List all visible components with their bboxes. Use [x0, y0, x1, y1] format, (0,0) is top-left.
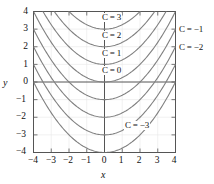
x-tick-label: 4 — [165, 156, 183, 166]
y-tick-label: −1 — [8, 95, 26, 105]
y-tick-label: 4 — [10, 7, 28, 17]
x-tick-label: 1 — [112, 156, 130, 166]
x-axis-label: x — [101, 170, 105, 180]
y-tick-label: −2 — [8, 112, 26, 122]
curve-label-cminus3: C = −3 — [124, 121, 150, 130]
curve-label-c2: C = 2 — [101, 31, 122, 40]
y-tick-label: 1 — [10, 60, 28, 70]
x-tick-label: −1 — [77, 156, 95, 166]
slope-field-parabola-family-figure: 4 3 2 1 0 −1 −2 −3 −4 −4 −3 −2 −1 0 1 2 … — [0, 0, 214, 184]
y-tick-label: 3 — [10, 24, 28, 34]
x-tick-label: −4 — [24, 156, 42, 166]
x-tick-label: −2 — [59, 156, 77, 166]
curve-label-c1: C = 1 — [101, 49, 122, 58]
x-tick-label: 2 — [130, 156, 148, 166]
y-axis-label: y — [3, 78, 7, 88]
x-tick-label: 0 — [95, 156, 113, 166]
x-tick-label: −3 — [42, 156, 60, 166]
x-tick-label: 3 — [148, 156, 166, 166]
curve-label-cminus2: C = −2 — [178, 43, 204, 52]
y-tick-label: 2 — [10, 42, 28, 52]
y-tick-label: −3 — [8, 130, 26, 140]
curve-label-cminus1: C = −1 — [178, 25, 204, 34]
curve-label-c3: C = 3 — [101, 13, 122, 22]
y-tick-label: 0 — [10, 77, 28, 87]
curve-label-c0: C = 0 — [101, 66, 122, 75]
